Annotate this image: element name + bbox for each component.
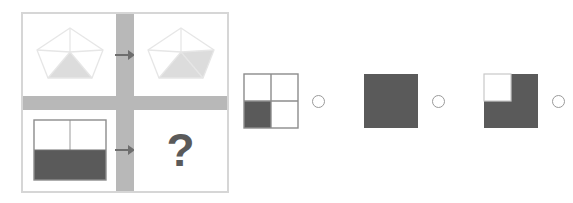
matrix-cell-row2-source [23,110,116,192]
pentagon-one-triangle-shaded-icon [31,19,109,91]
matrix-cell-row1-target [134,14,227,96]
question-mark-label: ? [166,127,194,173]
matrix-cell-row2-target: ? [134,110,227,192]
option-1-square-bottom-left-shaded-icon[interactable] [243,73,299,129]
matrix-separator-right [134,96,227,110]
answer-option-1[interactable] [243,73,325,129]
matrix-separator-left [23,96,116,110]
option-3-square-three-quarters-shaded-icon[interactable] [483,73,539,129]
option-2-square-solid-icon[interactable] [363,73,419,129]
pentagon-two-regions-shaded-icon [142,19,220,91]
answer-option-3[interactable] [483,73,565,129]
answer-options [243,0,573,203]
square-bottom-half-shaded-icon [33,119,107,181]
option-1-radio[interactable] [312,95,325,108]
answer-option-2[interactable] [363,73,445,129]
analogy-matrix: ? [21,12,229,193]
matrix-arrow-row1 [116,14,134,96]
option-3-radio[interactable] [552,95,565,108]
arrow-right-icon [114,142,136,158]
matrix-cell-row1-source [23,14,116,96]
visual-analogy-puzzle: ? [0,0,573,203]
matrix-separator-center [116,96,134,110]
arrow-right-icon [114,47,136,63]
matrix-arrow-row2 [116,110,134,192]
option-2-radio[interactable] [432,95,445,108]
